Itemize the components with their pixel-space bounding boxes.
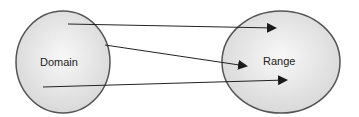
range-label: Range: [263, 55, 295, 67]
domain-range-diagram: DomainRange: [0, 0, 359, 117]
set-domain: Domain: [16, 11, 110, 113]
domain-label: Domain: [40, 56, 78, 68]
set-range: Range: [222, 11, 340, 113]
